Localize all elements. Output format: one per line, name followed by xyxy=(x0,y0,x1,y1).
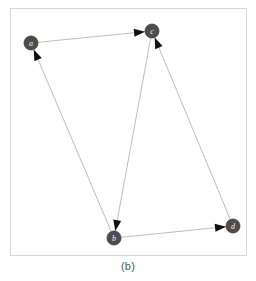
arrowhead-icon-c-to-b xyxy=(113,220,121,232)
figure-caption: (b) xyxy=(0,260,256,272)
figure-panel: acbd (b) xyxy=(0,0,256,281)
arrowhead-icon-a-to-c xyxy=(134,29,145,37)
directed-graph-canvas: acbd xyxy=(0,0,256,281)
graph-edge-b-to-a xyxy=(34,49,112,231)
graph-node-label-a: a xyxy=(29,39,33,48)
graph-edge-b-to-d xyxy=(121,227,226,238)
graph-node-label-c: c xyxy=(150,27,154,36)
nodes-layer: acbd xyxy=(24,24,240,245)
arrowhead-icon-d-to-c xyxy=(155,37,163,49)
arrowheads-layer xyxy=(34,29,226,232)
graph-node-b[interactable]: b xyxy=(107,231,121,245)
graph-node-a[interactable]: a xyxy=(24,36,38,50)
graph-edge-d-to-c xyxy=(155,37,231,219)
arrowhead-icon-b-to-a xyxy=(34,49,42,61)
graph-node-d[interactable]: d xyxy=(226,219,240,233)
graph-node-c[interactable]: c xyxy=(145,24,159,38)
graph-node-label-b: b xyxy=(112,234,116,243)
edges-layer xyxy=(34,32,231,238)
graph-edge-a-to-c xyxy=(38,32,145,43)
arrowhead-icon-b-to-d xyxy=(215,224,226,232)
graph-edge-c-to-b xyxy=(115,38,150,231)
